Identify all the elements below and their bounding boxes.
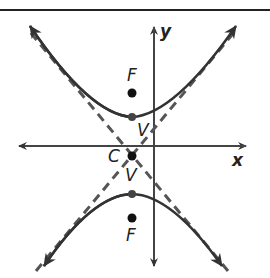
- x-axis-label: x: [232, 152, 243, 169]
- vertex-upper-point: [128, 113, 136, 121]
- focus-lower-point: [128, 214, 137, 223]
- center-label: C: [108, 148, 120, 165]
- focus-lower-label: F: [126, 227, 136, 244]
- vertex-lower-label: V: [125, 167, 137, 184]
- upper-branch-left-arrow: [30, 26, 132, 117]
- y-axis-label: y: [160, 23, 171, 40]
- vertex-lower-point: [128, 190, 136, 198]
- hyperbola-diagram: y x F V C V F: [0, 0, 270, 278]
- focus-upper-label: F: [127, 67, 137, 84]
- focus-upper-point: [128, 89, 137, 98]
- center-point: [128, 152, 137, 161]
- vertex-upper-label: V: [137, 122, 149, 139]
- lower-branch-left-arrow: [44, 194, 132, 266]
